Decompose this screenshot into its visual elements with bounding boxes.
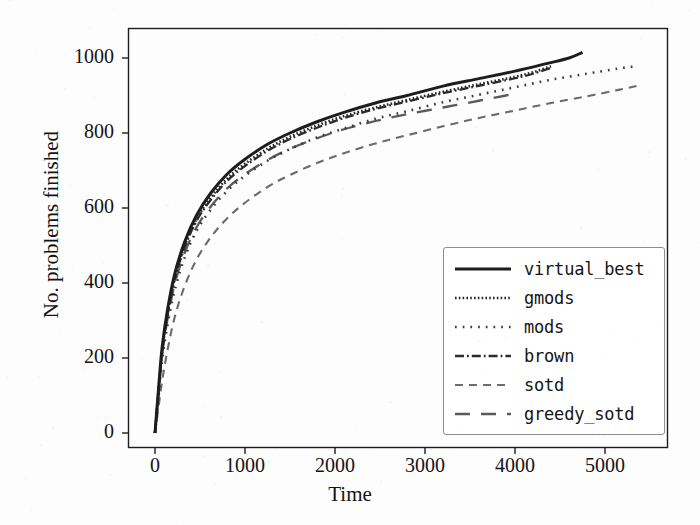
legend-line-sample-virtual_best [454,261,512,277]
legend-entry-mods: mods [444,312,664,341]
legend-label: gmods [524,288,574,308]
y-tick-label: 800 [44,120,114,143]
legend-entry-virtual_best: virtual_best [444,254,664,283]
x-tick-label: 0 [110,454,200,477]
legend-line-sample-greedy_sotd [454,406,512,422]
x-tick-label: 3000 [380,454,470,477]
x-tick-label: 5000 [560,454,650,477]
legend-entry-greedy_sotd: greedy_sotd [444,399,664,428]
legend-line-sample-sotd [454,377,512,393]
legend-entry-gmods: gmods [444,283,664,312]
legend-entry-brown: brown [444,341,664,370]
cactus-plot-figure: No. problems finished Time 0100020003000… [0,0,700,525]
x-tick-label: 1000 [200,454,290,477]
y-tick-label: 400 [44,270,114,293]
y-axis-title: No. problems finished [39,110,64,340]
y-tick-label: 200 [44,345,114,368]
legend-label: brown [524,346,574,366]
x-tick-label: 4000 [470,454,560,477]
legend-entry-sotd: sotd [444,370,664,399]
legend-line-sample-mods [454,319,512,335]
x-axis-title: Time [0,482,700,507]
legend-line-sample-gmods [454,290,512,306]
chart-legend: virtual_bestgmodsmodsbrownsotdgreedy_sot… [443,247,665,435]
y-tick-label: 1000 [44,45,114,68]
legend-line-sample-brown [454,348,512,364]
legend-label: greedy_sotd [524,404,634,424]
legend-label: virtual_best [524,259,644,279]
y-tick-label: 0 [44,420,114,443]
y-tick-label: 600 [44,195,114,218]
x-tick-label: 2000 [290,454,380,477]
y-axis-ticks [122,58,128,433]
legend-label: mods [524,317,564,337]
legend-label: sotd [524,375,564,395]
